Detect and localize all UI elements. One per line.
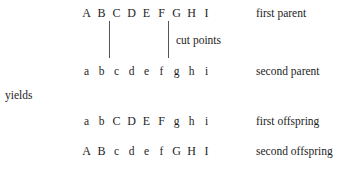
yields-label: yields bbox=[5, 89, 32, 102]
gene-cell: H bbox=[184, 7, 199, 20]
row-label-first-parent: first parent bbox=[256, 7, 306, 20]
gene-cell: H bbox=[184, 145, 199, 158]
cut-point-line-2 bbox=[168, 21, 169, 58]
gene-cell: B bbox=[94, 7, 109, 20]
gene-cell: F bbox=[154, 115, 169, 128]
gene-cell: F bbox=[154, 7, 169, 20]
gene-cell: a bbox=[79, 65, 94, 78]
gene-cell: i bbox=[199, 115, 214, 128]
gene-cell: b bbox=[94, 115, 109, 128]
gene-row-first-offspring: a b C D E F g h i bbox=[79, 115, 214, 128]
row-label-second-parent: second parent bbox=[256, 65, 320, 78]
gene-cell: i bbox=[199, 65, 214, 78]
gene-cell: g bbox=[169, 65, 184, 78]
gene-cell: E bbox=[139, 115, 154, 128]
gene-cell: f bbox=[154, 65, 169, 78]
gene-cell: I bbox=[199, 7, 214, 20]
gene-cell: h bbox=[184, 65, 199, 78]
gene-cell: e bbox=[139, 145, 154, 158]
gene-cell: e bbox=[139, 65, 154, 78]
gene-cell: d bbox=[124, 65, 139, 78]
gene-cell: C bbox=[109, 7, 124, 20]
gene-row-second-offspring: A B c d e f G H I bbox=[79, 145, 214, 158]
cut-point-line-1 bbox=[109, 21, 110, 58]
gene-cell: D bbox=[124, 7, 139, 20]
gene-cell: b bbox=[94, 65, 109, 78]
gene-cell: A bbox=[79, 7, 94, 20]
gene-cell: g bbox=[169, 115, 184, 128]
gene-cell: D bbox=[124, 115, 139, 128]
row-label-first-offspring: first offspring bbox=[256, 115, 319, 128]
gene-cell: c bbox=[109, 65, 124, 78]
cut-points-label: cut points bbox=[176, 34, 221, 47]
gene-cell: h bbox=[184, 115, 199, 128]
gene-cell: f bbox=[154, 145, 169, 158]
gene-row-first-parent: A B C D E F G H I bbox=[79, 7, 214, 20]
gene-cell: I bbox=[199, 145, 214, 158]
gene-cell: a bbox=[79, 115, 94, 128]
gene-cell: G bbox=[169, 145, 184, 158]
gene-row-second-parent: a b c d e f g h i bbox=[79, 65, 214, 78]
gene-cell: E bbox=[139, 7, 154, 20]
row-label-second-offspring: second offspring bbox=[256, 145, 333, 158]
gene-cell: c bbox=[109, 145, 124, 158]
gene-cell: G bbox=[169, 7, 184, 20]
crossover-diagram: A B C D E F G H I a b c d e f g h i a b … bbox=[0, 0, 364, 170]
gene-cell: C bbox=[109, 115, 124, 128]
gene-cell: B bbox=[94, 145, 109, 158]
gene-cell: d bbox=[124, 145, 139, 158]
gene-cell: A bbox=[79, 145, 94, 158]
